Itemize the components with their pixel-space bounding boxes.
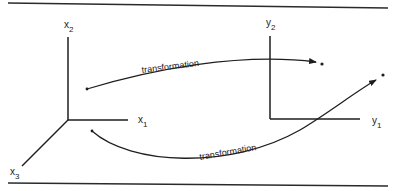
- upper-transformation-arrow: [87, 59, 316, 89]
- x3-label: x3: [10, 166, 20, 181]
- y1-label: y1: [372, 115, 382, 130]
- x3-axis: [22, 120, 68, 166]
- y2-label: y2: [266, 17, 276, 32]
- target-point-lower: [381, 73, 384, 76]
- bottom-rule: [8, 183, 388, 186]
- x1-label: x1: [138, 114, 148, 129]
- lower-transformation-label: transformation: [199, 142, 257, 162]
- left-axes: [22, 37, 128, 166]
- x2-label: x2: [64, 19, 74, 34]
- target-point-upper: [320, 62, 323, 65]
- right-axes: [270, 36, 360, 119]
- top-rule: [8, 3, 388, 8]
- upper-transformation-label: transformation: [141, 58, 199, 75]
- transformation-diagram: x2 x1 x3 y2 y1 transformation transforma…: [0, 0, 394, 191]
